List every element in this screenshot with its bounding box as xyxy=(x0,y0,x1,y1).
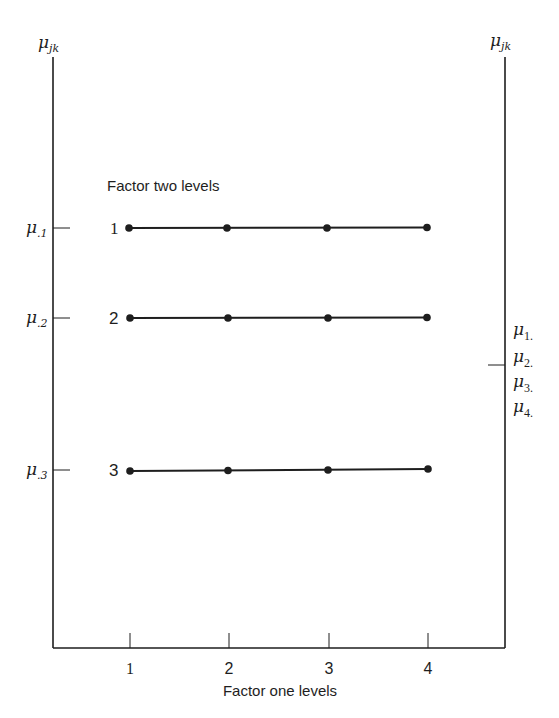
left-y-tick-label-3: μ .3 xyxy=(26,459,48,482)
data-point xyxy=(223,224,231,232)
data-point xyxy=(324,314,332,322)
svg-text:μ: μ xyxy=(26,459,37,479)
left-y-label-base: μ xyxy=(38,32,49,52)
data-point xyxy=(423,314,431,322)
svg-text:μ: μ xyxy=(513,396,524,416)
x-tick-label-2: 2 xyxy=(225,660,234,677)
series-line-1 xyxy=(125,224,431,232)
svg-text:μ: μ xyxy=(513,346,524,366)
series-label-1: 1 xyxy=(110,219,119,238)
left-y-ticks xyxy=(53,228,70,470)
x-tick-label-1: 1 xyxy=(126,660,134,677)
svg-text:.3: .3 xyxy=(37,469,48,482)
svg-text:μ: μ xyxy=(513,371,524,391)
svg-text:μ: μ xyxy=(26,217,37,237)
svg-text:.1: .1 xyxy=(37,227,48,240)
right-y-axis-label: μ jk xyxy=(490,30,511,53)
right-tick-label-4: μ 4. xyxy=(513,396,533,420)
svg-text:.2: .2 xyxy=(37,317,48,330)
data-point xyxy=(126,467,134,475)
right-tick-label-1: μ 1. xyxy=(513,319,533,343)
x-tick-label-3: 3 xyxy=(325,660,334,677)
series-line-2 xyxy=(126,314,431,322)
right-tick-label-3: μ 3. xyxy=(513,371,533,395)
data-point xyxy=(323,224,331,232)
x-tick-label-4: 4 xyxy=(424,660,433,677)
left-y-tick-label-1: μ .1 xyxy=(26,217,48,240)
svg-text:2.: 2. xyxy=(524,356,533,370)
series-line-3 xyxy=(126,465,432,475)
svg-text:3.: 3. xyxy=(524,381,533,395)
svg-text:μ: μ xyxy=(26,307,37,327)
x-tick-labels: 1 2 3 4 xyxy=(126,660,433,677)
data-point xyxy=(324,466,332,474)
right-tick-label-2: μ 2. xyxy=(513,346,533,370)
x-axis-ticks xyxy=(130,633,428,648)
legend-title: Factor two levels xyxy=(107,177,220,194)
series-label-2: 2 xyxy=(109,309,118,328)
data-point xyxy=(424,465,432,473)
left-y-tick-label-2: μ .2 xyxy=(26,307,48,330)
right-y-label-base: μ xyxy=(490,30,501,50)
left-y-axis-label: μ jk xyxy=(38,32,59,55)
data-point xyxy=(423,224,431,232)
data-point xyxy=(125,224,133,232)
svg-text:4.: 4. xyxy=(524,406,533,420)
svg-text:1.: 1. xyxy=(524,329,533,343)
interaction-plot: μ jk μ jk 1 2 3 4 Factor one levels Fact… xyxy=(0,0,559,718)
data-point xyxy=(224,314,232,322)
series-label-3: 3 xyxy=(109,461,118,480)
data-point xyxy=(224,467,232,475)
data-point xyxy=(126,314,134,322)
x-axis-title: Factor one levels xyxy=(223,682,337,699)
svg-text:μ: μ xyxy=(513,319,524,339)
